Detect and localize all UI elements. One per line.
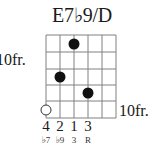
interval-label: R bbox=[80, 135, 96, 145]
finger-number: 1 bbox=[67, 118, 81, 134]
finger-number: 3 bbox=[81, 118, 95, 134]
finger-number: 4 bbox=[39, 118, 53, 134]
open-circle-string1-fret5 bbox=[41, 105, 51, 115]
finger-number: 2 bbox=[53, 118, 67, 134]
finger-dot-string3-fret1 bbox=[69, 39, 80, 50]
finger-dot-string2-fret3 bbox=[55, 72, 66, 83]
finger-dot-string4-fret4 bbox=[83, 88, 94, 99]
